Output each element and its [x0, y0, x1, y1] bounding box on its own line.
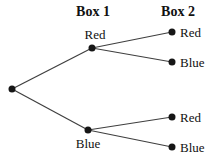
box1-blue-label: Blue: [76, 137, 101, 150]
box2-red-bottom-label: Red: [180, 111, 201, 124]
box2-red-top-label: Red: [180, 26, 201, 39]
tree-edge: [12, 89, 88, 130]
tree-node-start: [9, 86, 16, 93]
tree-node-box1-blue: [85, 127, 92, 134]
tree-edge: [12, 48, 92, 89]
tree-edge: [92, 48, 172, 62]
tree-svg: [0, 0, 217, 158]
box1-red-label: Red: [85, 28, 106, 41]
tree-edge: [88, 117, 172, 130]
tree-node-box2-blue-top: [169, 59, 176, 66]
tree-node-box2-red-top: [169, 29, 176, 36]
tree-node-box2-blue-bottom: [169, 144, 176, 151]
box2-header: Box 2: [161, 5, 195, 19]
tree-node-box2-red-bottom: [169, 114, 176, 121]
tree-diagram: Box 1 Box 2 Red Blue Red Blue Red Blue: [0, 0, 217, 158]
box1-header: Box 1: [76, 5, 110, 19]
box2-blue-bottom-label: Blue: [180, 141, 205, 154]
box2-blue-top-label: Blue: [180, 56, 205, 69]
tree-node-box1-red: [89, 45, 96, 52]
